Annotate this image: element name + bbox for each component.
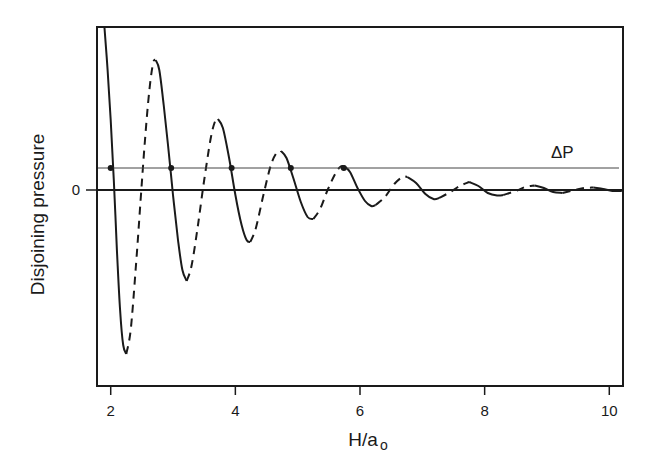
curve-stable-3 (218, 119, 250, 242)
y-tick-zero-label: 0 (72, 181, 80, 198)
x-tick-label: 8 (480, 402, 488, 419)
intersection-dot (168, 165, 174, 171)
x-tick-label: 6 (356, 402, 364, 419)
x-tick-label: 2 (107, 402, 115, 419)
curve-stable-5 (344, 166, 376, 206)
intersection-dot (341, 165, 347, 171)
plot-frame (97, 27, 623, 386)
intersection-dot (229, 165, 235, 171)
x-axis-label-main: H/a (348, 429, 378, 450)
intersection-dot (108, 165, 114, 171)
y-axis-label: Disjoining pressure (27, 134, 48, 296)
curve-unstable-1 (126, 60, 155, 354)
x-tick-label: 4 (231, 402, 239, 419)
curve-stable-7 (469, 182, 503, 196)
x-axis-ticks: 246810 (107, 386, 618, 419)
curve-unstable-3 (250, 151, 281, 242)
x-tick-label: 10 (601, 402, 618, 419)
delta-p-label: ΔP (551, 143, 574, 162)
x-axis-label: H/ao (348, 429, 388, 453)
disjoining-pressure-chart: 246810 ΔP 0 Disjoining pressure H/ao (0, 0, 654, 468)
curve-stable-4 (281, 151, 313, 219)
x-axis-label-subscript: o (380, 437, 388, 453)
curve-stable-6 (407, 177, 439, 199)
intersection-dot (288, 165, 294, 171)
curve-unstable-4 (313, 166, 344, 219)
curve-unstable-2 (187, 119, 218, 281)
